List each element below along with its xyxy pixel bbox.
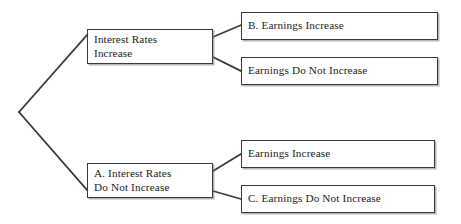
- node-label-line-1: A. Interest Rates: [94, 167, 171, 180]
- node-label-line-1: C. Earnings Do Not Increase: [248, 192, 381, 205]
- node-label-line-1: B. Earnings Increase: [248, 19, 344, 32]
- node-b-earnings-increase[interactable]: B. Earnings Increase: [241, 12, 438, 40]
- node-interest-rates-increase[interactable]: Interest Rates Increase: [87, 29, 213, 64]
- edge-interest-rates-not-increase-to-c-earnings-do-not-increase: [213, 191, 241, 199]
- edge-interest-rates-increase-to-earnings-do-not-increase: [213, 57, 241, 71]
- node-label-line-2: Do Not Increase: [94, 181, 170, 194]
- node-label-line-1: Earnings Increase: [248, 147, 330, 160]
- edge-interest-rates-increase-to-b-earnings-increase: [213, 25, 241, 37]
- node-label-line-2: Increase: [94, 47, 132, 60]
- node-label-line-1: Interest Rates: [94, 33, 157, 46]
- node-earnings-increase[interactable]: Earnings Increase: [241, 140, 435, 168]
- node-c-earnings-do-not-increase[interactable]: C. Earnings Do Not Increase: [241, 185, 435, 213]
- decision-tree-diagram: Interest Rates Increase A. Interest Rate…: [0, 0, 461, 224]
- node-label-line-1: Earnings Do Not Increase: [248, 64, 367, 77]
- edge-interest-rates-not-increase-to-earnings-increase: [213, 154, 241, 171]
- node-a-interest-rates-do-not-increase[interactable]: A. Interest Rates Do Not Increase: [87, 163, 213, 198]
- edge-root-to-interest-rates-not-increase: [19, 112, 87, 190]
- node-earnings-do-not-increase[interactable]: Earnings Do Not Increase: [241, 57, 438, 85]
- edge-root-to-interest-rates-increase: [19, 35, 87, 112]
